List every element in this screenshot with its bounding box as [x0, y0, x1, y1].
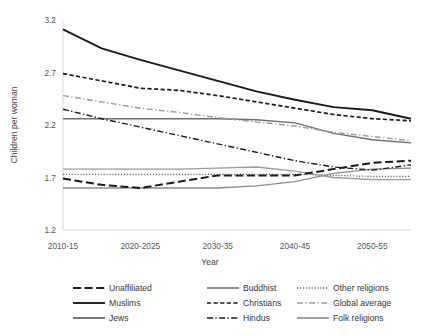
- legend-label: Jews: [109, 313, 129, 323]
- legend-label: Christians: [243, 298, 281, 308]
- legend-label: Muslims: [109, 298, 141, 308]
- x-tick-label-2: 2030-35: [202, 241, 233, 251]
- legend-label: Unaffiliated: [109, 283, 152, 293]
- legend-label: Buddhist: [243, 283, 277, 293]
- x-tick-label-1: 2020-2025: [120, 241, 160, 251]
- y-tick-label-0: 1.2: [44, 225, 56, 235]
- legend-label: Global average: [333, 298, 392, 308]
- chart-container: 1.21.72.22.73.2 2010-152020-20252030-352…: [0, 0, 424, 336]
- y-tick-label-2: 2.2: [44, 120, 56, 130]
- x-tick-label-0: 2010-15: [48, 241, 79, 251]
- y-tick-label-1: 1.7: [44, 173, 56, 183]
- x-axis-title: Year: [201, 257, 219, 267]
- x-tick-label-4: 2050-55: [357, 241, 388, 251]
- y-tick-label-4: 3.2: [44, 15, 56, 25]
- y-tick-label-3: 2.7: [44, 68, 56, 78]
- y-axis-title: Children per woman: [9, 86, 19, 163]
- legend-label: Folk religions: [333, 313, 384, 323]
- legend-label: Other religions: [333, 283, 389, 293]
- fertility-line-chart: 1.21.72.22.73.2 2010-152020-20252030-352…: [0, 0, 424, 336]
- legend-label: Hindus: [243, 313, 270, 323]
- x-tick-label-3: 2040-45: [280, 241, 311, 251]
